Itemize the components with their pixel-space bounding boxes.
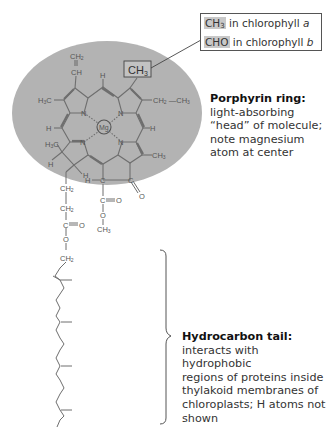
tail-line: shown	[182, 412, 328, 426]
variant-b: b	[307, 36, 314, 48]
tail-line: interacts with hydrophobic	[182, 344, 328, 371]
porphyrin-head-highlight	[12, 41, 202, 185]
porphyrin-ring-label: Porphyrin ring: light-absorbing “head” o…	[210, 92, 328, 160]
svg-text:C: C	[100, 196, 106, 205]
porphyrin-line: atom at center	[210, 146, 328, 160]
porphyrin-title: Porphyrin ring:	[210, 92, 328, 106]
svg-text:CH3: CH3	[97, 225, 111, 234]
svg-text:C: C	[63, 221, 69, 230]
svg-text:H: H	[46, 124, 51, 133]
svg-text:C: C	[128, 176, 134, 185]
svg-text:H: H	[48, 160, 53, 169]
formula-ch3: CH3	[204, 17, 226, 29]
svg-text:H: H	[100, 71, 105, 80]
svg-text:N: N	[118, 138, 123, 147]
svg-text:O: O	[63, 235, 69, 244]
callout-row-a: CH3 in chlorophyll a	[204, 15, 318, 34]
svg-text:N: N	[80, 138, 85, 147]
porphyrin-line: “head” of molecule;	[210, 119, 328, 133]
callout-row-b-text: in chlorophyll	[230, 36, 307, 48]
svg-text:CH2: CH2	[60, 204, 74, 213]
variant-a: a	[303, 17, 309, 29]
tail-title: Hydrocarbon tail:	[182, 330, 328, 344]
svg-text:O: O	[139, 192, 145, 201]
tail-line: thylakoid membranes of	[182, 384, 328, 398]
svg-text:H: H	[85, 176, 90, 185]
formula-ch3-text: CH	[205, 17, 220, 29]
svg-text:CH: CH	[71, 68, 82, 77]
svg-text:N: N	[118, 109, 123, 118]
svg-text:CH2: CH2	[60, 184, 74, 193]
svg-text:H: H	[150, 124, 155, 133]
svg-text:CH2 —CH3: CH2 —CH3	[153, 96, 190, 105]
svg-text:Mg: Mg	[99, 124, 109, 132]
callout-row-b: CHO in chlorophyll b	[204, 34, 318, 50]
porphyrin-line: note magnesium	[210, 133, 328, 147]
tail-brace	[160, 250, 171, 424]
hydrocarbon-tail-label: Hydrocarbon tail: interacts with hydroph…	[182, 330, 328, 425]
porphyrin-line: light-absorbing	[210, 106, 328, 120]
svg-text:O: O	[100, 211, 106, 220]
tail-line: chloroplasts; H atoms not	[182, 398, 328, 412]
svg-text:N: N	[81, 109, 86, 118]
tail-line: regions of proteins inside	[182, 371, 328, 385]
svg-text:CH2: CH2	[60, 254, 74, 263]
svg-text:C: C	[100, 176, 106, 185]
callout-row-a-text: in chlorophyll	[226, 17, 303, 29]
svg-text:O: O	[116, 196, 122, 205]
formula-cho: CHO	[204, 36, 230, 48]
chlorophyll-variant-callout: CH3 in chlorophyll a CHO in chlorophyll …	[200, 13, 322, 51]
svg-text:O: O	[79, 221, 85, 230]
formula-ch3-subscript: 3	[220, 22, 224, 30]
